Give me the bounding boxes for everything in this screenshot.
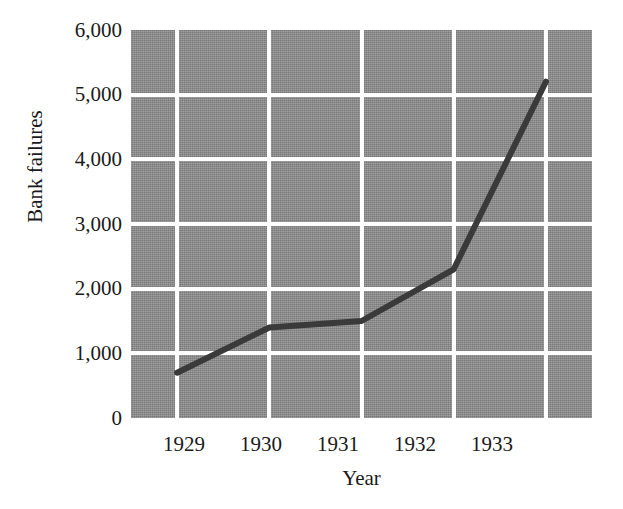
x-axis-title: Year	[131, 468, 592, 489]
y-tick-1000: 1,000	[2, 343, 122, 364]
y-axis-title: Bank failures	[25, 57, 46, 277]
y-tick-0: 0	[2, 408, 122, 429]
series-bank-failures	[177, 82, 546, 373]
x-axis-tick-labels: 1929 1930 1931 1932 1933	[0, 434, 623, 464]
y-tick-2000: 2,000	[2, 278, 122, 299]
plot-area	[131, 30, 592, 418]
y-tick-3000: 3,000	[2, 214, 122, 235]
bank-failures-line-chart: 0 1,000 2,000 3,000 4,000 5,000 6,000 19…	[0, 0, 623, 509]
y-tick-6000: 6,000	[2, 20, 122, 41]
x-tick-1933: 1933	[432, 434, 552, 455]
y-tick-4000: 4,000	[2, 149, 122, 170]
data-series-line	[131, 30, 592, 418]
y-axis-tick-labels: 0 1,000 2,000 3,000 4,000 5,000 6,000	[0, 0, 122, 509]
y-tick-5000: 5,000	[2, 84, 122, 105]
